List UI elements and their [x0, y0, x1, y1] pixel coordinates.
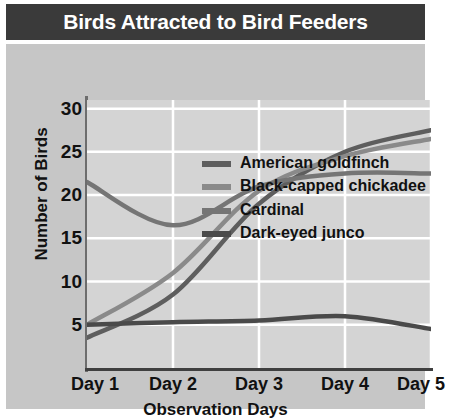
legend-item-label: Dark-eyed junco: [240, 224, 364, 241]
legend-item[interactable]: Black-capped chickadee: [202, 177, 427, 194]
x-axis-spine: [85, 368, 433, 371]
legend-item[interactable]: Dark-eyed junco: [202, 224, 427, 241]
x-axis-tick-labels: Day 1Day 2Day 3Day 4Day 5: [87, 374, 431, 400]
y-axis-tick-labels: 51015202530: [34, 44, 82, 409]
y-tick-label: 10: [42, 272, 82, 291]
y-tick-label: 20: [42, 185, 82, 204]
legend-color-swatch: [202, 231, 231, 237]
legend-item-label: Black-capped chickadee: [240, 177, 426, 194]
x-tick-label: Day 3: [219, 374, 299, 395]
legend-item-label: American goldfinch: [240, 154, 389, 171]
legend-color-swatch: [202, 161, 231, 167]
y-tick-label: 25: [42, 142, 82, 161]
x-tick-label: Day 5: [381, 374, 450, 395]
x-tick-label: Day 2: [133, 374, 213, 395]
chart-title: Birds Attracted to Bird Feeders: [63, 10, 368, 34]
legend-item[interactable]: Cardinal: [202, 201, 427, 218]
chart-legend: American goldfinchBlack-capped chickadee…: [202, 154, 427, 247]
y-tick-label: 5: [42, 315, 82, 334]
x-tick-label: Day 1: [55, 374, 135, 395]
legend-item[interactable]: American goldfinch: [202, 154, 427, 171]
chart-title-banner: Birds Attracted to Bird Feeders: [6, 4, 425, 40]
x-tick-label: Day 4: [305, 374, 385, 395]
legend-color-swatch: [202, 208, 231, 214]
x-axis-title: Observation Days: [6, 400, 425, 420]
legend-item-label: Cardinal: [240, 201, 304, 218]
y-tick-label: 15: [42, 228, 82, 247]
chart-frame: Number of Birds 51015202530 Day 1Day 2Da…: [6, 44, 425, 409]
legend-color-swatch: [202, 184, 231, 190]
y-tick-label: 30: [42, 99, 82, 118]
